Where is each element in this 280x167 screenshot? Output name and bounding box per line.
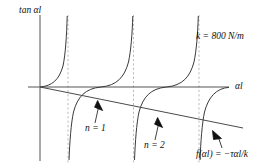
arrowhead-fn xyxy=(213,131,222,140)
line-equation-label: f(αl) = −ταl/k xyxy=(196,150,248,160)
tan-branch-1 xyxy=(40,16,67,87)
mode-2-label: n = 2 xyxy=(144,141,165,151)
stiffness-annotation: k = 800 N/m xyxy=(196,32,244,42)
linear-function-group xyxy=(40,87,243,128)
tan-branch-3 xyxy=(135,16,199,160)
arrowhead-n1 xyxy=(95,101,103,111)
tan-branch-2 xyxy=(69,16,133,160)
y-axis-label: tan αl xyxy=(19,6,41,16)
frequency-equation-figure: tan αl αl k = 800 N/m n = 1 n = 2 f(αl) … xyxy=(0,0,280,167)
mode-1-label: n = 1 xyxy=(85,124,106,134)
linear-function-line xyxy=(40,87,243,128)
asymptote-group xyxy=(68,15,199,163)
arrowhead-n2 xyxy=(155,118,163,128)
x-axis-label: αl xyxy=(235,82,243,92)
